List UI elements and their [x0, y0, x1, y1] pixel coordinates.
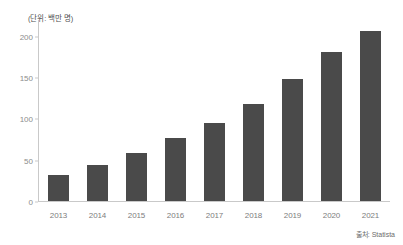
x-axis-tick-label: 2015	[128, 211, 145, 220]
bar-2013[interactable]	[48, 175, 69, 201]
x-axis-tick-slot: 2014	[78, 204, 117, 222]
x-axis-line	[38, 201, 390, 202]
x-axis-tick-slot: 2016	[156, 204, 195, 222]
bar-slot	[312, 20, 351, 201]
bar-series-group	[39, 20, 390, 201]
bar-2014[interactable]	[87, 165, 108, 201]
x-axis-tick-slot: 2019	[273, 204, 312, 222]
y-axis-tick-mark	[35, 119, 38, 120]
bar-slot	[351, 20, 390, 201]
x-axis-tick-label: 2016	[167, 211, 184, 220]
x-axis-tick-label: 2018	[245, 211, 262, 220]
y-axis-tick-label: 100	[7, 115, 33, 124]
bar-chart-figure: (단위: 백만 명) 050100150200 2013201420152016…	[0, 0, 403, 245]
bar-2016[interactable]	[165, 138, 186, 201]
x-axis-tick-slot: 2020	[312, 204, 351, 222]
y-axis-tick-label: 50	[7, 156, 33, 165]
plot-area: 050100150200	[38, 20, 390, 202]
x-axis-tick-slot: 2021	[351, 204, 390, 222]
bar-2020[interactable]	[321, 52, 342, 201]
bar-slot	[117, 20, 156, 201]
y-axis-tick-mark	[35, 77, 38, 78]
bar-2019[interactable]	[282, 79, 303, 201]
x-axis-tick-slot: 2015	[117, 204, 156, 222]
x-axis-tick-label: 2013	[50, 211, 67, 220]
bar-2015[interactable]	[126, 153, 147, 201]
y-axis-tick-mark	[35, 202, 38, 203]
bar-slot	[234, 20, 273, 201]
x-axis-tick-slot: 2013	[39, 204, 78, 222]
x-axis-tick-label: 2014	[89, 211, 106, 220]
bar-slot	[156, 20, 195, 201]
x-axis-tick-group: 201320142015201620172018201920202021	[39, 204, 390, 222]
bar-2017[interactable]	[204, 123, 225, 201]
y-axis-tick-label: 200	[7, 32, 33, 41]
x-axis-tick-label: 2021	[362, 211, 379, 220]
bar-slot	[195, 20, 234, 201]
y-axis-tick-mark	[35, 36, 38, 37]
bar-2018[interactable]	[243, 104, 264, 201]
x-axis-tick-label: 2020	[323, 211, 340, 220]
bar-slot	[273, 20, 312, 201]
bar-2021[interactable]	[360, 31, 381, 201]
x-axis-tick-slot: 2017	[195, 204, 234, 222]
y-axis-tick-mark	[35, 160, 38, 161]
bar-slot	[39, 20, 78, 201]
y-axis-tick-label: 0	[7, 198, 33, 207]
source-label: 출처: Statista	[356, 229, 395, 239]
x-axis-tick-label: 2019	[284, 211, 301, 220]
y-axis-tick-label: 150	[7, 73, 33, 82]
source-attribution: 출처: Statista	[356, 229, 395, 239]
x-axis-tick-label: 2017	[206, 211, 223, 220]
bar-slot	[78, 20, 117, 201]
x-axis-tick-slot: 2018	[234, 204, 273, 222]
